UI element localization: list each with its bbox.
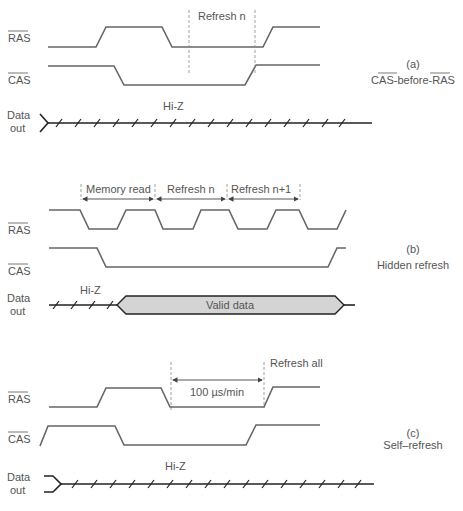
interval-refresh-n: Refresh n: [167, 183, 215, 195]
ras-waveform: [49, 210, 346, 229]
cas-label: CAS: [8, 265, 31, 277]
data-out-hiz-bus: [40, 114, 372, 132]
data-out-label-line1: Data: [7, 109, 31, 121]
interval-refresh-n-plus-1: Refresh n+1: [231, 183, 291, 195]
cas-label: CAS: [8, 74, 31, 86]
cas-label: CAS: [8, 433, 31, 445]
data-out-label-line1: Data: [7, 292, 31, 304]
caption-title-c: Self–refresh: [383, 439, 442, 451]
data-out-hiz-bus: [49, 301, 117, 309]
caption-title-a: CAS-before-RAS: [371, 74, 455, 86]
ras-waveform: [48, 27, 320, 47]
panel-b: Memory read Refresh n Refresh n+1 RAS CA…: [7, 183, 449, 317]
ras-label: RAS: [8, 393, 31, 405]
panel-a: RAS CAS Refresh n Hi-Z Data out: [7, 10, 455, 134]
cas-waveform: [48, 65, 320, 85]
caption-letter-b: (b): [406, 243, 419, 255]
caption-letter-a: (a): [406, 58, 419, 70]
ras-label: RAS: [8, 224, 31, 236]
ras-waveform: [49, 387, 320, 407]
hiz-label: Hi-Z: [80, 284, 101, 296]
data-out-label-line2: out: [10, 484, 25, 496]
data-out-label-line1: Data: [7, 471, 31, 483]
panel-c: Refresh all 100 µs/min RAS CAS Hi-Z Data…: [7, 357, 443, 496]
dram-refresh-timing-diagram: RAS CAS Refresh n Hi-Z Data out: [0, 0, 463, 511]
refresh-all-annotation: Refresh all: [270, 357, 323, 369]
cas-waveform: [40, 425, 320, 446]
data-out-hiz-bus: [44, 476, 374, 492]
ras-label: RAS: [8, 32, 31, 44]
valid-data-label: Valid data: [206, 299, 255, 311]
interval-memory-read: Memory read: [86, 183, 151, 195]
data-out-label-line2: out: [10, 122, 25, 134]
data-out-label-line2: out: [10, 305, 25, 317]
caption-title-b: Hidden refresh: [377, 259, 449, 271]
duration-annotation: 100 µs/min: [190, 386, 244, 398]
cas-waveform: [49, 248, 346, 267]
hiz-label: Hi-Z: [165, 460, 186, 472]
hiz-label: Hi-Z: [163, 100, 184, 112]
refresh-n-annotation: Refresh n: [198, 10, 246, 22]
caption-letter-c: (c): [407, 427, 420, 439]
